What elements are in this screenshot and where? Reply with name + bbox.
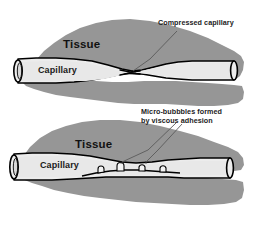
label-tissue-bottom: Tissue xyxy=(75,138,112,150)
annotation-micro-bubbles-line2: by viscous adhesion xyxy=(141,116,213,125)
micro-bubble-2 xyxy=(117,163,124,172)
leader-anchor-dot-1 xyxy=(120,162,122,164)
label-tissue-top: Tissue xyxy=(63,38,100,50)
capillary-opening-bottom-left-inner xyxy=(13,159,17,176)
capillary-diagram: Compressed capillary Tissue Capillary xyxy=(0,0,255,229)
annotation-micro-bubbles-line1: Micro-bubbbles formed xyxy=(141,107,222,116)
annotation-compressed-capillary: Compressed capillary xyxy=(158,18,234,27)
micro-bubble-4 xyxy=(160,166,166,172)
label-capillary-top: Capillary xyxy=(38,65,77,75)
capillary-opening-bottom-right xyxy=(227,158,234,178)
capillary-opening-top-left-inner xyxy=(17,63,21,79)
micro-bubble-1 xyxy=(98,166,104,173)
figure-root: Compressed capillary Tissue Capillary xyxy=(0,0,255,229)
capillary-opening-top-right xyxy=(231,61,238,80)
label-capillary-bottom: Capillary xyxy=(40,160,79,170)
micro-bubble-3 xyxy=(139,165,145,171)
